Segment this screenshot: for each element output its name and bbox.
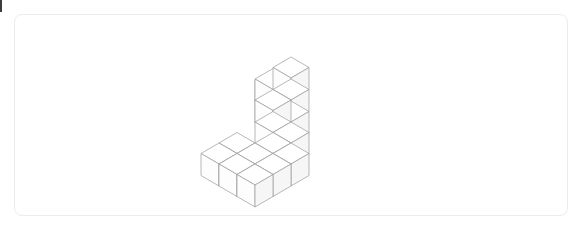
left-edge-sliver	[0, 0, 2, 12]
voxel-group	[201, 57, 309, 207]
isometric-cube-svg	[15, 15, 569, 217]
page-root	[0, 0, 584, 230]
isometric-cube-structure	[15, 15, 567, 215]
figure-card	[14, 14, 568, 216]
